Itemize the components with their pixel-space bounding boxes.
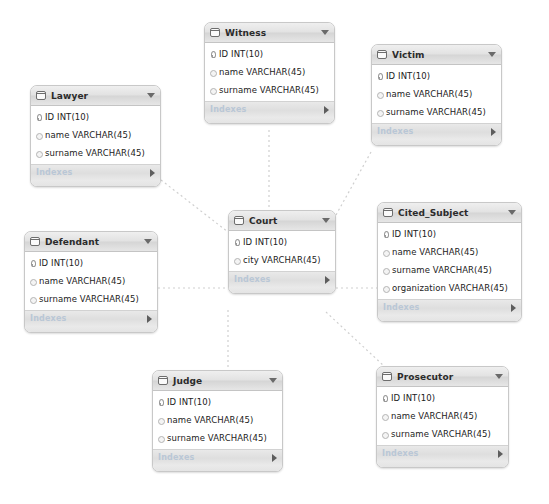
triangle-right-icon[interactable] <box>324 106 329 114</box>
column-row[interactable]: ID INT(10) <box>377 389 508 407</box>
table-name: Cited_Subject <box>398 208 504 218</box>
column-row[interactable]: name VARCHAR(45) <box>25 272 157 290</box>
chevron-down-icon[interactable] <box>269 378 277 383</box>
diamond-icon <box>382 249 389 256</box>
column-row[interactable]: surname VARCHAR(45) <box>25 290 157 308</box>
table-name: Prosecutor <box>397 372 491 382</box>
column-row[interactable]: surname VARCHAR(45) <box>153 429 282 447</box>
table-header[interactable]: Judge <box>153 371 282 391</box>
diamond-icon <box>35 150 42 157</box>
diamond-icon <box>382 285 389 292</box>
column-row[interactable]: name VARCHAR(45) <box>378 243 521 261</box>
indexes-label: Indexes <box>234 275 325 284</box>
table-icon <box>210 28 220 37</box>
column-label: name VARCHAR(45) <box>167 415 253 425</box>
indexes-section-toggle[interactable]: Indexes <box>378 299 521 315</box>
chevron-down-icon[interactable] <box>144 239 152 244</box>
triangle-right-icon[interactable] <box>511 304 516 312</box>
relationship-connector[interactable] <box>161 180 228 232</box>
diamond-icon <box>29 278 36 285</box>
indexes-section-toggle[interactable]: Indexes <box>205 101 334 117</box>
column-row[interactable]: name VARCHAR(45) <box>377 407 508 425</box>
chevron-down-icon[interactable] <box>495 374 503 379</box>
key-icon <box>157 399 164 406</box>
table-header[interactable]: Witness <box>205 23 334 43</box>
column-row[interactable]: ID INT(10) <box>25 254 157 272</box>
column-label: ID INT(10) <box>219 49 263 59</box>
diamond-icon <box>376 91 383 98</box>
diamond-icon <box>233 257 240 264</box>
table-name: Lawyer <box>51 91 143 101</box>
triangle-right-icon[interactable] <box>498 450 503 458</box>
indexes-section-toggle[interactable]: Indexes <box>25 310 157 326</box>
relationship-connector[interactable] <box>336 152 371 215</box>
chevron-down-icon[interactable] <box>147 93 155 98</box>
column-row[interactable]: name VARCHAR(45) <box>372 85 501 103</box>
column-label: ID INT(10) <box>45 112 89 122</box>
column-label: ID INT(10) <box>39 258 83 268</box>
column-label: surname VARCHAR(45) <box>391 429 491 439</box>
table-node-prosecutor[interactable]: ProsecutorID INT(10)name VARCHAR(45)surn… <box>376 366 509 468</box>
column-row[interactable]: ID INT(10) <box>229 233 335 251</box>
table-node-lawyer[interactable]: LawyerID INT(10)name VARCHAR(45)surname … <box>30 85 161 187</box>
column-row[interactable]: organization VARCHAR(45) <box>378 279 521 297</box>
column-list: ID INT(10)name VARCHAR(45)surname VARCHA… <box>205 43 334 101</box>
table-icon <box>36 91 46 100</box>
table-node-court[interactable]: CourtID INT(10)city VARCHAR(45)Indexes <box>228 210 336 294</box>
column-row[interactable]: ID INT(10) <box>153 393 282 411</box>
table-icon <box>158 376 168 385</box>
column-row[interactable]: ID INT(10) <box>31 108 160 126</box>
key-icon <box>382 231 389 238</box>
table-node-cited_subject[interactable]: Cited_SubjectID INT(10)name VARCHAR(45)s… <box>377 202 522 322</box>
indexes-section-toggle[interactable]: Indexes <box>377 445 508 461</box>
indexes-label: Indexes <box>383 303 511 312</box>
key-icon <box>381 395 388 402</box>
table-node-witness[interactable]: WitnessID INT(10)name VARCHAR(45)surname… <box>204 22 335 124</box>
chevron-down-icon[interactable] <box>508 210 516 215</box>
indexes-section-toggle[interactable]: Indexes <box>153 449 282 465</box>
key-icon <box>209 51 216 58</box>
table-header[interactable]: Lawyer <box>31 86 160 106</box>
triangle-right-icon[interactable] <box>147 315 152 323</box>
column-row[interactable]: name VARCHAR(45) <box>153 411 282 429</box>
table-node-judge[interactable]: JudgeID INT(10)name VARCHAR(45)surname V… <box>152 370 283 472</box>
column-row[interactable]: surname VARCHAR(45) <box>205 81 334 99</box>
indexes-section-toggle[interactable]: Indexes <box>229 271 335 287</box>
diamond-icon <box>29 296 36 303</box>
chevron-down-icon[interactable] <box>322 218 330 223</box>
column-row[interactable]: ID INT(10) <box>205 45 334 63</box>
table-node-victim[interactable]: VictimID INT(10)name VARCHAR(45)surname … <box>371 44 502 146</box>
column-row[interactable]: ID INT(10) <box>372 67 501 85</box>
triangle-right-icon[interactable] <box>491 128 496 136</box>
eer-diagram-canvas[interactable]: WitnessID INT(10)name VARCHAR(45)surname… <box>0 0 549 504</box>
column-row[interactable]: surname VARCHAR(45) <box>378 261 521 279</box>
table-header[interactable]: Cited_Subject <box>378 203 521 223</box>
table-header[interactable]: Prosecutor <box>377 367 508 387</box>
triangle-right-icon[interactable] <box>325 276 330 284</box>
column-row[interactable]: name VARCHAR(45) <box>31 126 160 144</box>
column-row[interactable]: name VARCHAR(45) <box>205 63 334 81</box>
column-label: surname VARCHAR(45) <box>219 85 319 95</box>
table-header[interactable]: Defendant <box>25 232 157 252</box>
column-row[interactable]: ID INT(10) <box>378 225 521 243</box>
table-node-defendant[interactable]: DefendantID INT(10)name VARCHAR(45)surna… <box>24 231 158 333</box>
triangle-right-icon[interactable] <box>150 169 155 177</box>
triangle-right-icon[interactable] <box>272 454 277 462</box>
column-row[interactable]: surname VARCHAR(45) <box>31 144 160 162</box>
relationship-connector[interactable] <box>326 312 384 366</box>
chevron-down-icon[interactable] <box>321 30 329 35</box>
chevron-down-icon[interactable] <box>488 52 496 57</box>
table-name: Defendant <box>45 237 140 247</box>
column-label: name VARCHAR(45) <box>219 67 305 77</box>
key-icon <box>376 73 383 80</box>
column-row[interactable]: surname VARCHAR(45) <box>377 425 508 443</box>
column-label: surname VARCHAR(45) <box>386 107 486 117</box>
table-header[interactable]: Victim <box>372 45 501 65</box>
table-header[interactable]: Court <box>229 211 335 231</box>
indexes-section-toggle[interactable]: Indexes <box>31 164 160 180</box>
column-label: name VARCHAR(45) <box>45 130 131 140</box>
column-label: surname VARCHAR(45) <box>392 265 492 275</box>
indexes-section-toggle[interactable]: Indexes <box>372 123 501 139</box>
column-row[interactable]: city VARCHAR(45) <box>229 251 335 269</box>
column-row[interactable]: surname VARCHAR(45) <box>372 103 501 121</box>
